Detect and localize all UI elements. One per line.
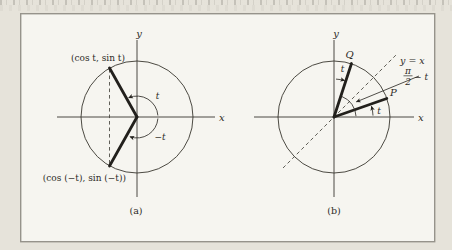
b-complement-numerator: π: [404, 66, 412, 76]
a-lower-point-label: (cos (−t), sin (−t)): [43, 173, 126, 183]
b-p-angle-label: t: [377, 106, 381, 116]
b-q-point-label: Q: [345, 49, 353, 60]
a-caption: (a): [129, 205, 142, 216]
a-x-axis-label: x: [219, 112, 225, 123]
figure-page: y x t −t (cos t, sin t) (cos (−t), sin (…: [0, 0, 452, 250]
b-caption: (b): [327, 205, 341, 216]
b-q-angle-label: t: [341, 64, 345, 74]
a-angle-label-neg-t: −t: [154, 132, 166, 142]
figure-canvas: y x t −t (cos t, sin t) (cos (−t), sin (…: [0, 0, 452, 250]
figure-frame: [21, 14, 435, 242]
b-complement-suffix: − t: [414, 72, 428, 82]
a-angle-label-t: t: [156, 91, 160, 101]
a-upper-point-label: (cos t, sin t): [71, 53, 125, 63]
b-y-axis-label: y: [332, 28, 339, 39]
a-y-axis-label: y: [135, 28, 142, 39]
b-identity-line-label: y = x: [399, 55, 425, 66]
b-x-axis-label: x: [418, 112, 424, 123]
b-complement-denominator: 2: [404, 77, 411, 87]
b-p-point-label: P: [389, 87, 397, 98]
